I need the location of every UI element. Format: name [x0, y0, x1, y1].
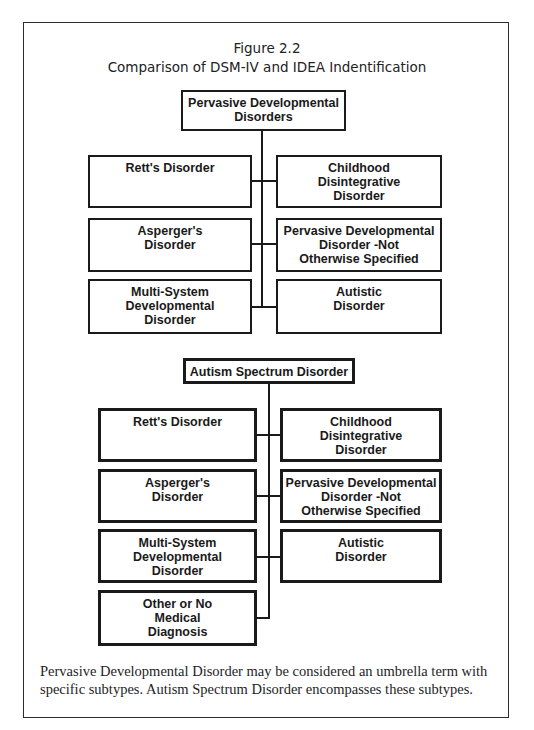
idea-box-retts: Rett's Disorder	[98, 408, 257, 462]
idea-connector-row1	[257, 434, 281, 436]
idea-box-pdd-nos: Pervasive Developmental Disorder -Not Ot…	[280, 469, 442, 523]
idea-box-childhood-disintegrative: Childhood Disintegrative Disorder	[280, 408, 442, 462]
idea-connector-row3	[257, 556, 281, 558]
dsm-root-box: Pervasive Developmental Disorders	[181, 90, 346, 131]
idea-trunk-line	[268, 383, 270, 619]
idea-box-aspergers: Asperger's Disorder	[98, 469, 257, 523]
dsm-box-aspergers: Asperger's Disorder	[88, 218, 252, 272]
idea-connector-row4	[257, 617, 270, 619]
dsm-connector-row3	[251, 306, 276, 308]
idea-root-box: Autism Spectrum Disorder	[183, 358, 355, 384]
cutoff-text-line	[40, 0, 500, 5]
figure-caption: Pervasive Developmental Disorder may be …	[40, 662, 500, 698]
dsm-box-autistic: Autistic Disorder	[276, 279, 442, 334]
dsm-connector-row2	[251, 243, 276, 245]
figure-number: Figure 2.2	[0, 40, 534, 56]
idea-box-other-no-diagnosis: Other or No Medical Diagnosis	[98, 590, 257, 646]
idea-box-autistic: Autistic Disorder	[280, 529, 442, 583]
figure-title: Comparison of DSM-IV and IDEA Indentific…	[0, 59, 534, 75]
dsm-box-pdd-nos: Pervasive Developmental Disorder -Not Ot…	[276, 218, 442, 272]
dsm-box-multi-system: Multi-System Developmental Disorder	[88, 279, 252, 334]
idea-box-multi-system: Multi-System Developmental Disorder	[98, 529, 257, 583]
dsm-box-childhood-disintegrative: Childhood Disintegrative Disorder	[276, 155, 442, 208]
dsm-box-retts: Rett's Disorder	[88, 155, 252, 208]
dsm-connector-row1	[251, 180, 276, 182]
idea-connector-row2	[257, 495, 281, 497]
dsm-trunk-line	[261, 130, 263, 308]
